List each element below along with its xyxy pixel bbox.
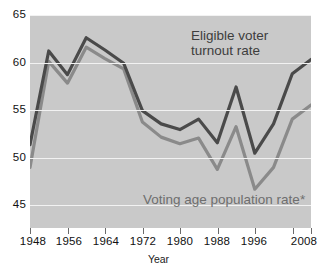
- annotation-eligible-line1: Eligible voter: [191, 28, 268, 43]
- gridline-50: [30, 158, 311, 159]
- gridline-65: [30, 15, 311, 16]
- x-tick-mark-1980: [180, 228, 181, 234]
- x-tick-label-1956: 1956: [56, 236, 82, 248]
- annotation-eligible-voter-turnout: Eligible voter turnout rate: [191, 28, 268, 58]
- annotation-eligible-line2: turnout rate: [191, 43, 260, 58]
- x-tick-label-1972: 1972: [130, 236, 156, 248]
- x-tick-label-1980: 1980: [167, 236, 193, 248]
- chart-figure: Eligible voter turnout rate Voting age p…: [0, 0, 317, 273]
- x-tick-mark-1972: [143, 228, 144, 234]
- x-tick-label-1964: 1964: [93, 236, 119, 248]
- x-axis-title: Year: [0, 253, 317, 265]
- x-tick-mark-1964: [105, 228, 106, 234]
- x-tick-mark-1956: [68, 228, 69, 234]
- y-axis: 65 60 55 50 45: [0, 0, 30, 273]
- x-tick-mark-2004: [293, 228, 294, 234]
- x-tick-label-1988: 1988: [204, 236, 230, 248]
- gridline-60: [30, 63, 311, 64]
- x-tick-label-2008: 2008: [291, 236, 317, 248]
- y-tick-45: 45: [13, 199, 26, 211]
- line-eligible-voter-turnout: [30, 38, 311, 153]
- x-tick-mark-1948: [30, 228, 31, 234]
- x-axis: 1948 1956 1964 1972 1980 1988 1996 2008: [30, 228, 311, 273]
- x-tick-mark-1996: [255, 228, 256, 234]
- plot-area: Eligible voter turnout rate Voting age p…: [30, 15, 311, 228]
- y-tick-65: 65: [13, 9, 26, 21]
- x-tick-label-1996: 1996: [241, 236, 267, 248]
- gridline-55: [30, 110, 311, 111]
- y-tick-60: 60: [13, 57, 26, 69]
- x-tick-mark-2008: [311, 228, 312, 234]
- y-tick-50: 50: [13, 152, 26, 164]
- x-tick-mark-1988: [218, 228, 219, 234]
- y-tick-55: 55: [13, 104, 26, 116]
- x-tick-label-1948: 1948: [20, 236, 46, 248]
- annotation-vap-text: Voting age population rate*: [143, 192, 305, 207]
- annotation-voting-age-population: Voting age population rate*: [143, 192, 305, 207]
